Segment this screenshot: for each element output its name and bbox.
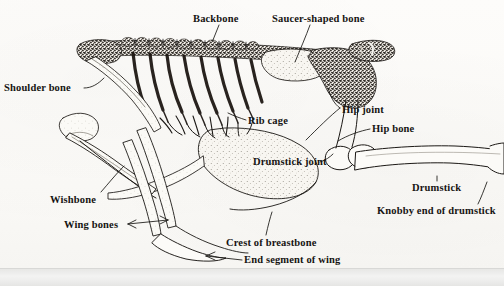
page-bottom-edge [0,268,504,286]
label-hip-joint: Hip joint [342,104,384,115]
label-knobby-end-of-drumstick: Knobby end of drumstick [377,205,496,216]
shoulder-bone [86,57,161,132]
label-wishbone: Wishbone [50,194,96,205]
coracoid-bone [59,113,98,141]
leader-wishbone [101,166,124,192]
figure-canvas: Backbone Saucer-shaped bone Shoulder bon… [0,0,504,286]
leader-backbone [213,25,219,40]
drumstick-bone [325,143,504,174]
label-end-segment-of-wing: End segment of wing [244,254,340,265]
label-shoulder-bone: Shoulder bone [4,82,71,93]
leader-crest [266,212,272,235]
leader-shoulder [84,78,104,88]
label-rib-cage: Rib cage [248,115,288,126]
label-backbone: Backbone [193,13,239,24]
leader-knobbyend [478,182,487,204]
label-saucer-shaped-bone: Saucer-shaped bone [272,13,364,24]
label-drumstick: Drumstick [412,182,461,193]
hip-bone-mass [308,40,395,108]
rib-cage-bones [133,53,262,113]
label-hip-bone: Hip bone [372,123,414,134]
label-wing-bones: Wing bones [64,219,118,230]
label-crest-of-breastbone: Crest of breastbone [226,237,317,248]
label-drumstick-joint: Drumstick joint [253,156,327,167]
knobby-end-of-drumstick [488,143,504,174]
